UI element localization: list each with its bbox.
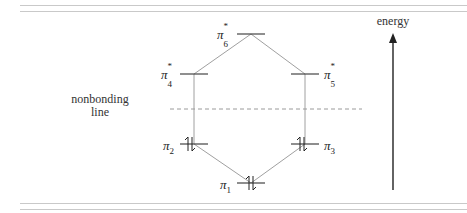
label-pi2: π2: [163, 139, 174, 156]
energy-axis-label: energy: [373, 15, 413, 28]
nonbonding-label: nonbonding line: [60, 93, 140, 119]
label-pi1: π1: [220, 178, 231, 195]
label-pi4: π*4: [161, 68, 172, 85]
nonbonding-label-line2: line: [60, 106, 140, 119]
label-pi5: π*5: [324, 68, 335, 85]
label-pi6: π*6: [217, 28, 228, 45]
label-pi3: π3: [324, 139, 335, 156]
energy-arrow: [389, 33, 397, 190]
electron-pairs: [185, 137, 307, 190]
